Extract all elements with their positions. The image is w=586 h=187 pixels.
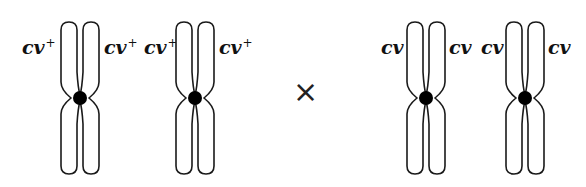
chromosome-icon	[58, 20, 102, 176]
chromosome-icon	[173, 20, 217, 176]
centromere-icon	[419, 91, 433, 105]
allele-label-right: cv+	[104, 37, 138, 57]
genetic-cross-diagram: cv+ cv+ cv+ cv+ × cv cv cv cv	[0, 0, 586, 187]
centromere-icon	[518, 91, 532, 105]
chromosome-icon	[503, 20, 547, 176]
allele-label-left: cv+	[22, 37, 56, 57]
cross-symbol: ×	[293, 77, 318, 107]
allele-label-right: cv	[449, 37, 473, 57]
chromosome-icon	[404, 20, 448, 176]
allele-label-left: cv	[381, 37, 405, 57]
allele-label-right: cv	[548, 37, 572, 57]
allele-label-left: cv	[481, 37, 505, 57]
centromere-icon	[188, 91, 202, 105]
centromere-icon	[73, 91, 87, 105]
allele-label-right: cv+	[219, 37, 253, 57]
